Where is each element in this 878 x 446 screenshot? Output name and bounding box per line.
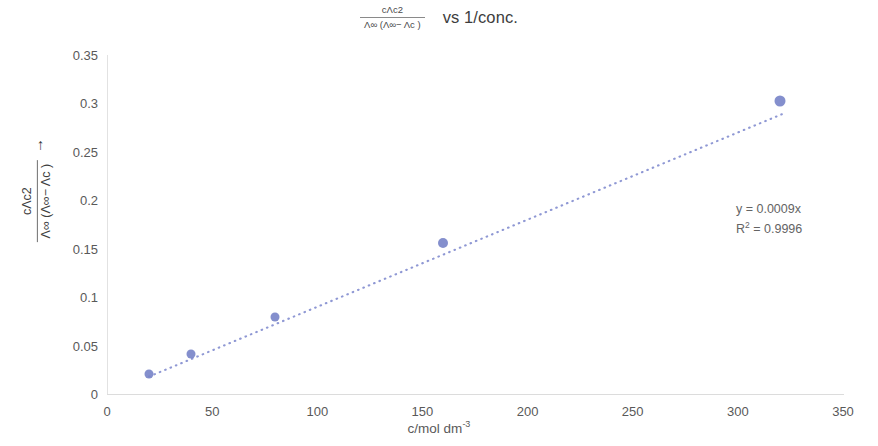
title-suffix: vs 1/conc.	[443, 8, 518, 27]
plot-area: 00.050.10.150.20.250.30.35 0501001502002…	[107, 55, 843, 394]
y-axis-tick-label: 0.1	[80, 290, 107, 305]
y-axis-tick-label: 0.05	[73, 338, 107, 353]
x-axis-title-exponent: -3	[462, 419, 470, 429]
y-axis-tick-label: 0.35	[73, 48, 107, 63]
x-axis-title: c/mol dm-3	[0, 419, 878, 436]
regression-equation: y = 0.0009x	[736, 200, 802, 219]
x-axis-tick-label: 350	[832, 394, 854, 419]
y-axis-tick-label: 0.15	[73, 241, 107, 256]
regression-r-squared: R2 = 0.9996	[736, 219, 802, 240]
y-axis-title-denominator: Λ∞ (Λ∞− Λc )	[37, 160, 55, 242]
x-axis-tick-label: 50	[205, 394, 219, 419]
y-axis-tick-label: 0.2	[80, 193, 107, 208]
data-point	[774, 96, 785, 107]
x-axis-tick-label: 200	[517, 394, 539, 419]
trendline	[107, 55, 843, 394]
y-axis-tick-label: 0.25	[73, 144, 107, 159]
chart-title: cΛc2 Λ∞ (Λ∞− Λc ) vs 1/conc.	[0, 4, 878, 31]
r-squared-value: = 0.9996	[750, 223, 802, 237]
data-point	[145, 369, 154, 378]
r-squared-label: R	[736, 223, 745, 237]
x-axis-tick-label: 300	[727, 394, 749, 419]
y-axis-title-fraction: cΛc2 Λ∞ (Λ∞− Λc )	[20, 160, 54, 242]
regression-annotation: y = 0.0009x R2 = 0.9996	[736, 200, 802, 240]
data-point	[438, 238, 448, 248]
y-axis-title: cΛc2 Λ∞ (Λ∞− Λc ) →	[20, 75, 54, 305]
y-axis-arrow-icon: →	[30, 138, 45, 153]
chart-canvas: cΛc2 Λ∞ (Λ∞− Λc ) vs 1/conc. cΛc2 Λ∞ (Λ∞…	[0, 0, 878, 446]
title-fraction: cΛc2 Λ∞ (Λ∞− Λc )	[360, 4, 425, 31]
x-axis-tick-label: 250	[622, 394, 644, 419]
x-axis-tick-label: 0	[103, 394, 110, 419]
data-point	[271, 312, 280, 321]
y-axis-title-numerator: cΛc2	[20, 183, 37, 219]
title-fraction-numerator: cΛc2	[378, 4, 407, 17]
x-axis-tick-label: 100	[306, 394, 328, 419]
x-axis-title-text: c/mol dm	[408, 421, 463, 436]
x-axis-tick-label: 150	[412, 394, 434, 419]
data-point	[187, 350, 196, 359]
title-fraction-denominator: Λ∞ (Λ∞− Λc )	[360, 17, 425, 31]
y-axis-tick-label: 0.3	[80, 96, 107, 111]
